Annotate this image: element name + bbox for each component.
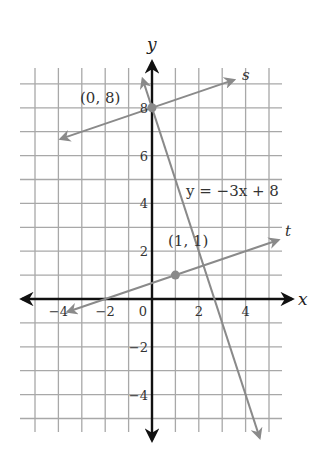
y-tick-label: 6 bbox=[140, 149, 148, 164]
x-tick-label: 0 bbox=[139, 304, 147, 319]
x-axis-label: x bbox=[298, 289, 308, 309]
point-label-1-1: (1, 1) bbox=[168, 232, 208, 250]
coordinate-plane-chart: y x (0, 8) (1, 1) s t y = −3x + 8 −4−202… bbox=[0, 0, 328, 472]
line-t-label: t bbox=[285, 222, 292, 240]
x-tick-label: −2 bbox=[96, 304, 115, 319]
y-axis-label: y bbox=[146, 34, 157, 54]
x-tick-label: −4 bbox=[49, 304, 68, 319]
data-point bbox=[171, 271, 180, 280]
point-label-0-8: (0, 8) bbox=[80, 89, 120, 107]
data-point bbox=[148, 103, 157, 112]
x-tick-label: 2 bbox=[195, 304, 203, 319]
y-tick-label: −4 bbox=[129, 388, 148, 403]
line-equation-label: y = −3x + 8 bbox=[185, 182, 279, 200]
y-tick-label: 4 bbox=[140, 196, 148, 211]
y-tick-label: 2 bbox=[140, 244, 148, 259]
line-y-3x-8 bbox=[143, 79, 260, 438]
y-tick-label: −2 bbox=[129, 340, 148, 355]
x-tick-label: 4 bbox=[241, 304, 249, 319]
line-s-label: s bbox=[242, 66, 250, 84]
y-tick-label: 8 bbox=[140, 101, 148, 116]
